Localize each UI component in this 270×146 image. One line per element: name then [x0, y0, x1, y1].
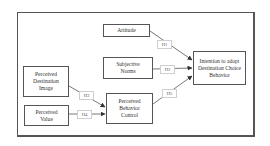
node-perceived-behavior-control-label: Perceived Behavior Control [113, 98, 146, 119]
h2-text: H2 [165, 67, 171, 72]
h5-text: H5 [167, 91, 173, 96]
h4-text: H4 [82, 112, 88, 117]
node-perceived-value-label: Perceived Value [33, 109, 60, 123]
node-perceived-behavior-control: Perceived Behavior Control [106, 93, 153, 124]
node-attitude: Attitude [103, 24, 150, 37]
node-subjective-norms-label: Subjective Norms [112, 61, 144, 75]
hypothesis-label-h5: H5 [162, 89, 177, 98]
h1-text: H1 [162, 42, 168, 47]
h3-text: H3 [84, 93, 90, 98]
node-intention: Intention to adopt Destination Choice Be… [193, 51, 246, 85]
node-perceived-value: Perceived Value [24, 105, 69, 126]
hypothesis-label-h2: H2 [160, 65, 175, 74]
node-perceived-destination-image-label: Perceived Destination Image [28, 71, 64, 92]
node-attitude-label: Attitude [117, 27, 135, 34]
node-perceived-destination-image: Perceived Destination Image [23, 66, 69, 97]
node-intention-label: Intention to adopt Destination Choice Be… [196, 58, 243, 79]
hypothesis-label-h4: H4 [77, 110, 92, 119]
hypothesis-label-h3: H3 [79, 91, 94, 100]
node-subjective-norms: Subjective Norms [103, 57, 153, 79]
hypothesis-label-h1: H1 [157, 40, 172, 49]
